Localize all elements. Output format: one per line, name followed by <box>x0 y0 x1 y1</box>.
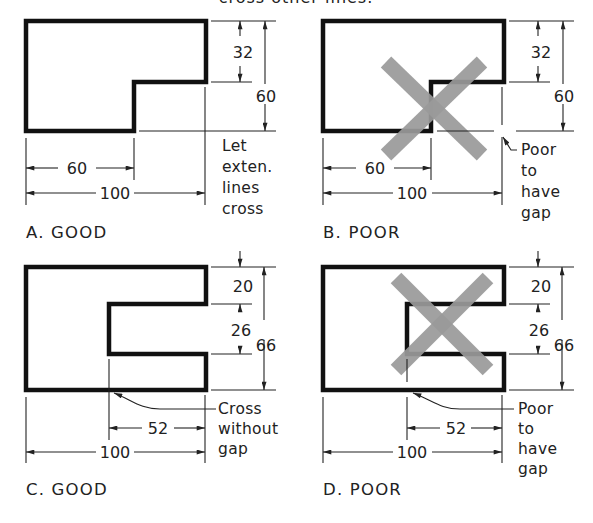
note-text: Let exten. lines cross <box>222 137 273 218</box>
caption: B. POOR <box>323 223 401 242</box>
svg-text:60: 60 <box>365 159 385 178</box>
svg-text:100: 100 <box>100 184 131 203</box>
svg-text:Poor: Poor <box>521 141 557 159</box>
svg-text:20: 20 <box>531 277 551 296</box>
panel-d: 20 26 66 52 100 Poor to have gap D. POOR <box>323 251 574 499</box>
svg-text:100: 100 <box>397 184 428 203</box>
svg-text:60: 60 <box>256 87 276 106</box>
object-outline <box>26 267 206 390</box>
svg-text:32: 32 <box>233 43 253 62</box>
svg-text:26: 26 <box>231 321 251 340</box>
svg-text:32: 32 <box>531 43 551 62</box>
svg-text:52: 52 <box>148 419 168 438</box>
svg-text:66: 66 <box>256 336 276 355</box>
svg-text:exten.: exten. <box>222 158 273 176</box>
svg-text:cross: cross <box>222 200 264 218</box>
panel-b: 32 60 60 100 Poor to have gap B. POOR <box>323 21 574 242</box>
header-text: cross other lines. <box>219 0 374 7</box>
caption: A. GOOD <box>26 223 107 242</box>
panel-c: 20 26 66 52 100 Cross without gap C. GOO… <box>26 251 278 499</box>
note-text: Poor to have gap <box>518 400 557 478</box>
svg-text:60: 60 <box>67 159 87 178</box>
caption: D. POOR <box>323 480 402 499</box>
svg-text:60: 60 <box>554 87 574 106</box>
caption: C. GOOD <box>26 480 108 499</box>
object-outline <box>26 21 206 131</box>
svg-text:Poor: Poor <box>518 400 554 418</box>
svg-text:to: to <box>518 420 534 438</box>
extension-lines-diagram: cross other lines. 32 60 60 100 Let exte… <box>0 0 593 523</box>
svg-text:gap: gap <box>218 440 248 458</box>
svg-text:lines: lines <box>222 179 260 197</box>
svg-text:66: 66 <box>554 336 574 355</box>
note-text: Poor to have gap <box>521 141 560 222</box>
svg-text:52: 52 <box>446 419 466 438</box>
svg-text:100: 100 <box>397 443 428 462</box>
svg-text:gap: gap <box>521 204 551 222</box>
svg-text:have: have <box>518 440 557 458</box>
svg-text:20: 20 <box>233 277 253 296</box>
svg-text:have: have <box>521 183 560 201</box>
svg-text:cross other lines.: cross other lines. <box>219 0 374 7</box>
note-text: Cross without gap <box>218 400 278 458</box>
svg-text:Cross: Cross <box>218 400 262 418</box>
svg-text:26: 26 <box>529 321 549 340</box>
svg-text:to: to <box>521 162 537 180</box>
panel-a: 32 60 60 100 Let exten. lines cross A. G… <box>26 21 276 242</box>
svg-text:100: 100 <box>100 443 131 462</box>
x-mark <box>386 62 482 155</box>
svg-text:Let: Let <box>222 137 247 155</box>
svg-text:gap: gap <box>518 460 548 478</box>
svg-text:without: without <box>218 420 278 438</box>
